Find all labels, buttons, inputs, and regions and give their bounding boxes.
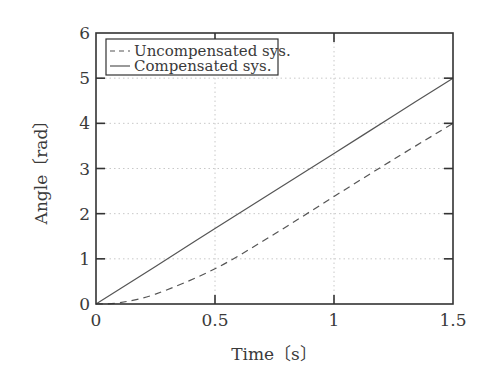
y-tick-label: 6 [79, 23, 90, 43]
x-tick-label: 0 [91, 310, 102, 330]
x-tick-label: 1 [329, 310, 340, 330]
y-tick-label: 3 [79, 159, 90, 179]
x-tick-label: 0.5 [201, 310, 228, 330]
legend: Uncompensated sys. Compensated sys. [106, 39, 291, 75]
line-chart: 00.511.5 0123456 Time〔s〕 Angle〔rad〕 Unco… [0, 0, 492, 378]
x-tick-label: 1.5 [439, 310, 466, 330]
x-axis-label: Time〔s〕 [231, 344, 317, 364]
y-tick-label: 2 [79, 204, 90, 224]
legend-label-compensated: Compensated sys. [134, 57, 271, 75]
y-tick-label: 0 [79, 294, 90, 314]
y-tick-label: 4 [79, 113, 90, 133]
data-series [96, 78, 453, 304]
x-axis-tick-labels: 00.511.5 [91, 310, 467, 330]
y-tick-label: 5 [79, 68, 90, 88]
y-axis-label: Angle〔rad〕 [31, 112, 51, 226]
compensated-series-line [96, 78, 453, 304]
y-tick-label: 1 [79, 249, 90, 269]
y-axis-tick-labels: 0123456 [79, 23, 90, 314]
uncompensated-series-line [96, 123, 453, 304]
